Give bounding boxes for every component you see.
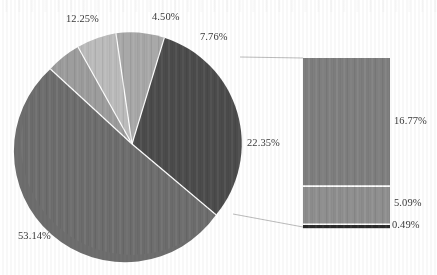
- pie-label-12: 12.25%: [66, 13, 99, 24]
- bar-texture-overlay: [303, 58, 390, 228]
- bar-label-16: 16.77%: [394, 115, 427, 126]
- pie-label-22: 22.35%: [247, 137, 280, 148]
- chart-canvas: 12.25% 4.50% 7.76% 22.35% 53.14% 16.77% …: [0, 0, 437, 275]
- pie-label-7: 7.76%: [200, 31, 228, 42]
- stacked-bar-group: [303, 58, 390, 228]
- callout-line-top: [240, 57, 303, 58]
- bar-label-5: 5.09%: [394, 197, 422, 208]
- pie-group: [14, 32, 243, 262]
- pie-label-4: 4.50%: [152, 11, 180, 22]
- callout-line-bottom: [233, 214, 303, 227]
- pie-texture-overlay: [21, 33, 243, 255]
- bar-label-0: 0.49%: [392, 219, 420, 230]
- pie-label-53: 53.14%: [18, 230, 51, 241]
